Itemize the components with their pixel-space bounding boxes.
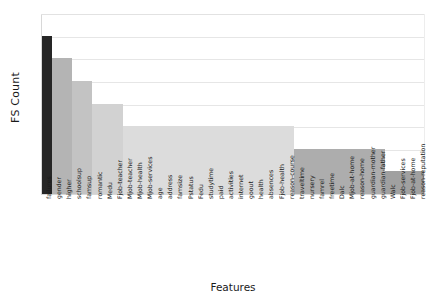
bar-higher[interactable] — [62, 58, 72, 194]
x-tick-label: address — [167, 175, 173, 199]
bar-paid[interactable] — [213, 126, 223, 194]
x-tick-label: absences — [268, 170, 274, 199]
x-tick-label: schoolsup — [76, 168, 82, 199]
y-axis-title-label: FS Count — [9, 72, 22, 123]
x-tick-Medu: Medu — [102, 197, 112, 275]
x-tick-famsize: famsize — [172, 197, 182, 275]
x-tick-Mjob-teacher: Mjob-teacher — [122, 197, 132, 275]
x-tick-label: guardian-father — [380, 151, 386, 199]
x-tick-address: address — [162, 197, 172, 275]
x-tick-studytime: studytime — [203, 197, 213, 275]
x-tick-Mjob-health: Mjob-health — [132, 197, 142, 275]
x-tick-nursery: nursery — [304, 197, 314, 275]
x-tick-Walc: Walc — [385, 197, 395, 275]
bar-Medu[interactable] — [102, 104, 112, 195]
x-tick-reason-course: reason-course — [284, 197, 294, 275]
x-tick-label: famsize — [177, 175, 183, 199]
x-tick-label: reason-home — [359, 158, 365, 199]
x-tick-Fjob-health: Fjob-health — [274, 197, 284, 275]
x-tick-health: health — [253, 197, 263, 275]
x-tick-Fedu: Fedu — [193, 197, 203, 275]
x-tick-label: guardian-mother — [370, 147, 376, 199]
x-tick-Dalc: Dalc — [334, 197, 344, 275]
x-tick-paid: paid — [213, 197, 223, 275]
x-tick-reason-home: reason-home — [354, 197, 364, 275]
x-tick-label: famsup — [86, 176, 92, 199]
x-tick-higher: higher — [61, 197, 71, 275]
x-tick-label: Fjob-teacher — [117, 160, 123, 199]
x-tick-traveltime: traveltime — [294, 197, 304, 275]
x-tick-gender: gender — [51, 197, 61, 275]
x-tick-famsup: famsup — [81, 197, 91, 275]
x-tick-label: gender — [56, 177, 62, 199]
y-axis-title: FS Count — [6, 0, 24, 195]
x-tick-label: Mjob-health — [137, 162, 143, 199]
x-tick-age: age — [152, 197, 162, 275]
x-tick-label: activities — [228, 171, 234, 199]
bar-gender[interactable] — [52, 58, 62, 194]
x-tick-Mjob-at-home: Mjob-at-home — [344, 197, 354, 275]
x-tick-label: nursery — [309, 175, 315, 199]
x-axis-tick-labels: failuresgenderhigherschoolsupfamsuproman… — [41, 197, 425, 275]
x-tick-label: Fjob-services — [400, 158, 406, 199]
bar-age[interactable] — [153, 126, 163, 194]
x-tick-famrel: famrel — [314, 197, 324, 275]
x-tick-guardian-father: guardian-father — [375, 197, 385, 275]
bar-series — [42, 14, 425, 194]
x-tick-label: Mjob-services — [147, 157, 153, 199]
x-tick-romantic: romantic — [92, 197, 102, 275]
x-tick-schoolsup: schoolsup — [71, 197, 81, 275]
x-tick-Fjob-services: Fjob-services — [395, 197, 405, 275]
x-tick-label: reason-course — [289, 155, 295, 199]
x-tick-label: romantic — [97, 172, 103, 199]
bar-failures[interactable] — [42, 36, 52, 194]
x-tick-label: traveltime — [299, 167, 305, 199]
x-tick-label: reason-reputation — [420, 144, 426, 199]
x-tick-label: Pstatus — [188, 176, 194, 199]
x-tick-label: freetime — [329, 173, 335, 199]
plot-area — [41, 14, 425, 195]
x-tick-internet: internet — [233, 197, 243, 275]
x-tick-label: Fjob-health — [279, 164, 285, 199]
x-tick-activities: activities — [223, 197, 233, 275]
plot-frame-top — [41, 14, 425, 15]
x-tick-Mjob-services: Mjob-services — [142, 197, 152, 275]
x-tick-failures: failures — [41, 197, 51, 275]
x-tick-guardian-mother: guardian-mother — [365, 197, 375, 275]
x-tick-freetime: freetime — [324, 197, 334, 275]
fs-count-bar-chart: FS Count 012345678 failuresgenderhighers… — [0, 0, 444, 300]
x-tick-goout: goout — [243, 197, 253, 275]
x-tick-absences: absences — [263, 197, 273, 275]
x-tick-Fjob-at-home: Fjob-at-home — [405, 197, 415, 275]
x-axis-title: Features — [41, 281, 425, 293]
x-tick-label: Fjob-at-home — [410, 158, 416, 199]
x-tick-label: Mjob-at-home — [349, 156, 355, 199]
x-tick-label: failures — [46, 176, 52, 199]
x-tick-Pstatus: Pstatus — [183, 197, 193, 275]
x-tick-label: internet — [238, 175, 244, 199]
x-tick-Fjob-teacher: Fjob-teacher — [112, 197, 122, 275]
x-tick-reason-reputation: reason-reputation — [415, 197, 425, 275]
x-tick-label: Mjob-teacher — [127, 158, 133, 199]
x-tick-label: famrel — [319, 179, 325, 199]
x-tick-label: studytime — [208, 168, 214, 199]
